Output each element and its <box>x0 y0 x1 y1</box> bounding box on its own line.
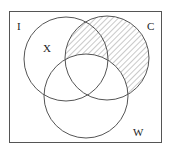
universe-label: I <box>17 20 21 32</box>
set-w-label: W <box>133 126 144 138</box>
set-x-label: X <box>43 42 51 54</box>
set-c-label: C <box>147 20 154 32</box>
venn-diagram: I X C W <box>0 0 169 149</box>
